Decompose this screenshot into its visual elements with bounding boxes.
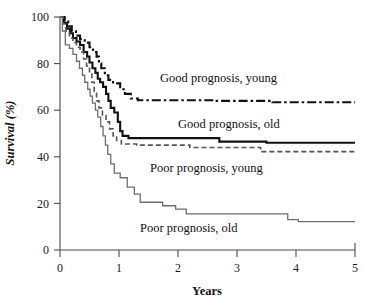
x-tick-label-4: 4 [293,261,299,275]
x-axis-title: Years [192,284,222,298]
curve-good-prognosis-young [60,17,355,102]
y-axis-ticks [54,17,60,250]
axes [60,17,355,250]
curve-label-good-prognosis-old: Good prognosis, old [178,117,280,131]
y-tick-label-60: 60 [37,103,49,117]
survival-curve-figure: 020406080100 012345 Good prognosis, youn… [0,0,373,306]
x-tick-label-1: 1 [116,261,122,275]
curve-label-good-prognosis-young: Good prognosis, young [160,71,278,85]
y-tick-label-40: 40 [37,150,49,164]
x-tick-label-0: 0 [57,261,63,275]
y-tick-label-0: 0 [43,243,49,257]
chart-canvas: 020406080100 012345 Good prognosis, youn… [0,0,373,306]
y-axis-title: Survival (%) [3,101,17,166]
x-axis-ticks [60,250,355,257]
curve-label-poor-prognosis-old: Poor prognosis, old [140,221,238,235]
curve-annotations: Good prognosis, youngGood prognosis, old… [140,71,280,235]
x-tick-label-2: 2 [175,261,181,275]
y-tick-label-20: 20 [37,197,49,211]
x-tick-label-3: 3 [234,261,240,275]
y-tick-label-100: 100 [31,10,49,24]
curve-label-poor-prognosis-young: Poor prognosis, young [150,161,264,175]
y-tick-label-80: 80 [37,57,49,71]
x-axis-tick-labels: 012345 [57,261,358,275]
x-tick-label-5: 5 [352,261,358,275]
y-axis-tick-labels: 020406080100 [31,10,49,257]
